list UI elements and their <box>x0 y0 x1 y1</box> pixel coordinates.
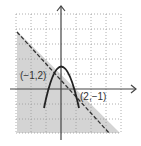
shaded-region <box>17 31 120 133</box>
point-label-neg1-2: (−1,2) <box>20 70 46 81</box>
point-label-2-neg1: (2,−1) <box>80 91 106 102</box>
coordinate-graph: (−1,2) (2,−1) <box>0 0 141 146</box>
